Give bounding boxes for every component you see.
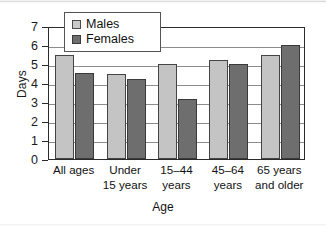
bar-group [158, 28, 197, 159]
bar-females [75, 73, 94, 159]
bar-males [261, 55, 280, 160]
y-axis-tick-label: 0 [16, 154, 38, 167]
legend: Males Females [64, 12, 161, 52]
y-axis-tick-label: 2 [16, 116, 38, 129]
y-axis-title: Days [16, 54, 28, 114]
bar-chart-figure: 01234567 Days Males Females All agesUnde… [0, 0, 326, 226]
bar-males [55, 55, 74, 159]
legend-swatch-females-icon [72, 35, 81, 44]
bar-females [281, 45, 300, 159]
bar-group [209, 28, 248, 159]
legend-swatch-males-icon [72, 20, 81, 29]
y-axis-tick-label: 1 [16, 135, 38, 148]
x-axis-title: Age [0, 201, 326, 213]
y-axis-tick [42, 160, 48, 161]
bar-females [229, 64, 248, 159]
x-axis-category-labels: All agesUnder15 years15–44years45–64year… [48, 163, 305, 199]
x-axis-category-label: 65 yearsand older [248, 163, 311, 192]
bar-males [209, 60, 228, 159]
page-edge-top [0, 0, 326, 3]
bar-males [107, 74, 126, 160]
legend-label-females: Females [86, 33, 134, 46]
y-axis-tick-label: 6 [16, 40, 38, 53]
legend-label-males: Males [86, 18, 119, 31]
bar-females [178, 99, 197, 159]
legend-item-males: Males [72, 17, 154, 32]
legend-item-females: Females [72, 32, 154, 47]
bar-males [158, 64, 177, 159]
bar-females [127, 79, 146, 159]
page-edge-bottom [0, 224, 326, 226]
bar-group [261, 28, 300, 159]
y-axis-tick-label: 7 [16, 21, 38, 34]
